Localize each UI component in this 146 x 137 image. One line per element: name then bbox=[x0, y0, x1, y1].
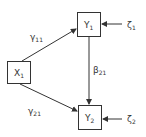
path-diagram: X1 Y1 Y2 γ11 γ21 β21 ζ1 ζ2 bbox=[0, 0, 146, 137]
edge-label-beta21: β21 bbox=[93, 65, 107, 76]
edge-label-gamma21: γ21 bbox=[28, 106, 41, 117]
node-y2-label: Y2 bbox=[84, 113, 95, 124]
disturbance-zeta2-label: ζ2 bbox=[127, 114, 136, 125]
disturbance-zeta1-label: ζ1 bbox=[127, 20, 136, 31]
edge-label-gamma11: γ11 bbox=[30, 32, 43, 43]
node-x1-label: X1 bbox=[14, 68, 24, 79]
node-y1-label: Y1 bbox=[83, 20, 94, 31]
